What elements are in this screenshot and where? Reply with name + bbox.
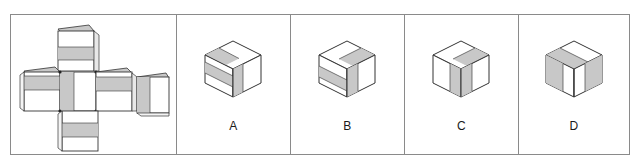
cube-d-svg <box>519 21 629 117</box>
figure-root: A <box>0 0 640 168</box>
panel-option-b[interactable]: B <box>291 15 404 154</box>
question-frame: A <box>10 14 630 155</box>
net-face-left <box>20 67 60 111</box>
panel-net <box>11 15 176 154</box>
cube-a-svg <box>177 21 290 117</box>
cube-c-svg <box>405 21 518 117</box>
option-a-cube <box>177 21 290 117</box>
cube-b-svg <box>291 21 404 117</box>
net-face-right <box>96 68 137 111</box>
option-a-label: A <box>177 119 290 133</box>
net-face-bottom <box>58 111 98 151</box>
panel-option-d[interactable]: D <box>519 15 629 154</box>
cube-net <box>11 15 176 154</box>
option-d-cube <box>519 21 629 117</box>
net-face-front <box>58 70 97 112</box>
net-face-back <box>137 73 169 116</box>
option-c-label: C <box>405 119 518 133</box>
cube-net-svg <box>11 15 176 154</box>
option-c-cube <box>405 21 518 117</box>
option-d-label: D <box>519 119 629 133</box>
option-b-label: B <box>291 119 404 133</box>
panel-option-c[interactable]: C <box>405 15 518 154</box>
panel-option-a[interactable]: A <box>177 15 290 154</box>
option-b-cube <box>291 21 404 117</box>
net-face-top <box>58 25 99 71</box>
